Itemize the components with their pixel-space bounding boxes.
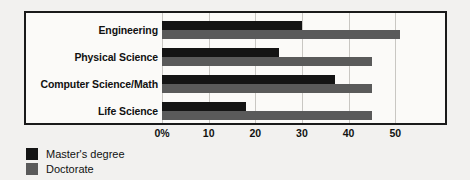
- legend-label: Master's degree: [46, 148, 125, 160]
- bar-group: Engineering: [26, 21, 445, 39]
- legend-swatch-master: [26, 148, 38, 160]
- x-tick-label: 50: [389, 127, 401, 139]
- x-tick-label: 40: [343, 127, 355, 139]
- chart-legend: Master's degreeDoctorate: [26, 146, 286, 176]
- bar-group: Computer Science/Math: [26, 75, 445, 93]
- bar-doctorate: [162, 57, 372, 66]
- bar-master: [162, 75, 335, 84]
- x-tick-label: 0%: [154, 127, 169, 139]
- bar-group: Physical Science: [26, 48, 445, 66]
- category-label: Life Science: [98, 105, 158, 117]
- bar-master: [162, 102, 246, 111]
- plot-frame: EngineeringPhysical ScienceComputer Scie…: [24, 11, 447, 125]
- legend-item: Master's degree: [26, 146, 286, 161]
- bar-group: Life Science: [26, 102, 445, 120]
- legend-label: Doctorate: [46, 163, 94, 175]
- legend-item: Doctorate: [26, 161, 286, 176]
- bar-doctorate: [162, 30, 400, 39]
- x-tick-label: 30: [296, 127, 308, 139]
- x-tick-label: 20: [249, 127, 261, 139]
- bar-master: [162, 48, 279, 57]
- category-label: Engineering: [98, 24, 158, 36]
- bar-rows: EngineeringPhysical ScienceComputer Scie…: [26, 13, 445, 123]
- bar-master: [162, 21, 302, 30]
- x-tick-label: 10: [203, 127, 215, 139]
- legend-swatch-doctorate: [26, 163, 38, 175]
- category-label: Computer Science/Math: [40, 78, 158, 90]
- bar-doctorate: [162, 111, 372, 120]
- plot-area: EngineeringPhysical ScienceComputer Scie…: [26, 13, 445, 123]
- bar-doctorate: [162, 84, 372, 93]
- grouped-bar-chart: EngineeringPhysical ScienceComputer Scie…: [0, 0, 470, 180]
- category-label: Physical Science: [74, 51, 158, 63]
